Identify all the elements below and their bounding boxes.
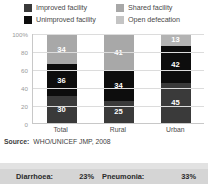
legend-label-open-defecation: Open defecation (128, 14, 180, 25)
legend-item-open-defecation: Open defecation (116, 14, 202, 25)
source-text: WHO/UNICEF JMP, 2008 (33, 138, 110, 145)
gridline (33, 88, 204, 89)
bar-urban: 134245 (161, 34, 191, 123)
gridline (33, 70, 204, 71)
stat-pneumonia-value: 33% (181, 172, 196, 181)
bar-segment: 30 (47, 96, 77, 123)
legend-swatch-open-defecation-icon (116, 16, 124, 24)
bar-segment: 25 (104, 101, 134, 123)
stacked-bar-chart: 100%806040200 343630413425134245 TotalRu… (0, 30, 208, 130)
stat-pneumonia-label: Pneumonia: (102, 172, 144, 181)
legend-swatch-shared-icon (116, 4, 124, 12)
x-axis-labels: TotalRuralUrban (32, 126, 204, 133)
stat-diarrhoea: Diarrhoea: 23% (0, 169, 98, 184)
legend-item-unimproved: Unimproved facility (24, 14, 112, 25)
bar-segment: 13 (161, 34, 191, 46)
legend-label-improved: Improved facility (36, 2, 87, 13)
x-axis-label-total: Total (46, 126, 76, 133)
legend-item-shared: Shared facility (116, 2, 202, 13)
bar-group: 343630413425134245 (33, 34, 204, 123)
stat-pneumonia: Pneumonia: 33% (98, 169, 202, 184)
stats-strip: Diarrhoea: 23% Pneumonia: 33% (0, 163, 208, 184)
x-axis-label-urban: Urban (160, 126, 190, 133)
x-axis-label-rural: Rural (103, 126, 133, 133)
y-axis-tick: 40 (21, 85, 28, 92)
stat-diarrhoea-value: 23% (79, 172, 94, 181)
y-axis: 100%806040200 (8, 30, 30, 124)
bar-total: 343630 (47, 34, 77, 123)
legend-swatch-improved-icon (24, 4, 32, 12)
legend-label-shared: Shared facility (128, 2, 172, 13)
bar-rural: 413425 (104, 34, 134, 123)
y-axis-tick: 0 (25, 121, 28, 128)
legend-item-improved: Improved facility (24, 2, 112, 13)
gridline (33, 106, 204, 107)
source-label: Source: (4, 138, 29, 145)
gridline (33, 34, 204, 35)
gridline (33, 52, 204, 53)
plot-area: 343630413425134245 (32, 34, 204, 124)
source-note: Source:WHO/UNICEF JMP, 2008 (4, 138, 111, 145)
chart-legend: Improved facility Shared facility Unimpr… (24, 2, 206, 25)
y-axis-tick: 60 (21, 67, 28, 74)
stat-diarrhoea-label: Diarrhoea: (16, 172, 53, 181)
y-axis-tick: 20 (21, 103, 28, 110)
legend-label-unimproved: Unimproved facility (36, 14, 96, 25)
stats-strip-row: Diarrhoea: 23% Pneumonia: 33% (0, 169, 208, 184)
bar-segment: 34 (104, 70, 134, 100)
y-axis-tick: 100% (12, 31, 28, 38)
bar-segment: 34 (47, 34, 77, 64)
y-axis-tick: 80 (21, 49, 28, 56)
legend-swatch-unimproved-icon (24, 16, 32, 24)
